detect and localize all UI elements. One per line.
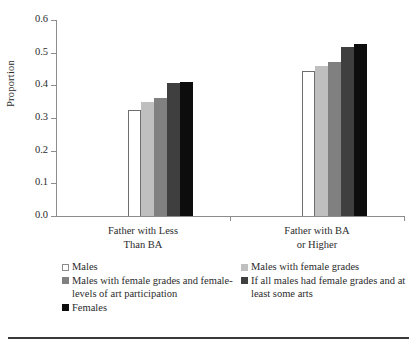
legend-item-left-1[interactable]: Males xyxy=(62,260,237,274)
bar-series-3-cat-1[interactable] xyxy=(154,98,167,216)
legend-column-left: MalesMales with female grades and female… xyxy=(62,260,237,314)
bar-group-2 xyxy=(302,20,367,216)
bar-series-1-cat-2[interactable] xyxy=(302,71,315,216)
y-tick-mark xyxy=(51,151,56,152)
legend-item-left-2[interactable]: Males with female grades and female-leve… xyxy=(62,274,237,301)
category-label-line: Father with Less xyxy=(56,224,230,238)
bar-series-4-cat-2[interactable] xyxy=(341,47,354,216)
x-axis-separator xyxy=(404,216,405,221)
y-tick-mark xyxy=(51,183,56,184)
legend-item-right-1[interactable]: Males with female grades xyxy=(241,260,413,274)
bar-series-1-cat-1[interactable] xyxy=(128,110,141,216)
legend-item-left-3[interactable]: Females xyxy=(62,301,237,315)
y-tick-mark xyxy=(51,53,56,54)
legend-label: Females xyxy=(72,301,107,315)
bar-series-2-cat-2[interactable] xyxy=(315,66,328,216)
y-tick-mark xyxy=(51,216,56,217)
y-tick-mark xyxy=(51,20,56,21)
plot-area: 0.00.10.20.30.40.50.6 xyxy=(56,20,404,216)
legend-swatch-icon xyxy=(241,264,248,271)
legend-swatch-icon xyxy=(241,277,248,284)
legend-label: Males with female grades and female-leve… xyxy=(72,274,237,301)
bar-series-2-cat-1[interactable] xyxy=(141,102,154,216)
bar-group-1 xyxy=(128,20,193,216)
category-label-line: Than BA xyxy=(56,238,230,252)
y-tick-mark xyxy=(51,118,56,119)
bar-series-4-cat-1[interactable] xyxy=(167,83,180,216)
y-tick-label: 0.6 xyxy=(35,13,48,24)
x-axis-separator xyxy=(230,216,231,221)
legend-label: Males xyxy=(72,260,98,274)
y-tick-label: 0.2 xyxy=(35,144,48,155)
bottom-divider-rule xyxy=(8,337,409,339)
category-label-1: Father with LessThan BA xyxy=(56,224,230,252)
bar-series-5-cat-2[interactable] xyxy=(354,44,367,216)
y-axis-title: Proportion xyxy=(5,34,16,134)
category-label-line: Father with BA xyxy=(230,224,404,238)
y-tick-label: 0.4 xyxy=(35,78,48,89)
legend-label: Males with female grades xyxy=(251,260,359,274)
y-tick-label: 0.0 xyxy=(35,209,48,220)
y-axis-line xyxy=(56,20,57,217)
legend-column-right: Males with female gradesIf all males had… xyxy=(241,260,413,301)
bars xyxy=(128,20,193,216)
y-tick-label: 0.3 xyxy=(35,111,48,122)
bar-series-3-cat-2[interactable] xyxy=(328,62,341,217)
bar-series-5-cat-1[interactable] xyxy=(180,82,193,216)
legend-label: If all males had female grades and at le… xyxy=(251,274,413,301)
y-tick-mark xyxy=(51,85,56,86)
bars xyxy=(302,20,367,216)
category-label-line: or Higher xyxy=(230,238,404,252)
legend-item-right-2[interactable]: If all males had female grades and at le… xyxy=(241,274,413,301)
legend-swatch-icon xyxy=(62,264,69,271)
y-tick-label: 0.5 xyxy=(35,46,48,57)
legend-swatch-icon xyxy=(62,277,69,284)
chart-legend: MalesMales with female grades and female… xyxy=(0,260,417,338)
legend-swatch-icon xyxy=(62,304,69,311)
y-tick-label: 0.1 xyxy=(35,176,48,187)
bar-chart-figure: Proportion 0.00.10.20.30.40.50.6 Father … xyxy=(0,0,417,345)
category-label-2: Father with BAor Higher xyxy=(230,224,404,252)
